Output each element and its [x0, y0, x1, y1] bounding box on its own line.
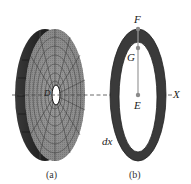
- caption-a: (a): [46, 170, 57, 180]
- caption-b: (b): [129, 170, 141, 180]
- ring-panel-b: [110, 27, 166, 161]
- label-X: X: [173, 89, 180, 100]
- label-dx: dx: [102, 136, 112, 147]
- label-F: F: [134, 14, 141, 25]
- point-E: [136, 93, 140, 97]
- figure-canvas: [0, 0, 191, 184]
- label-G: G: [127, 52, 135, 63]
- point-G: [136, 46, 140, 50]
- label-D: D: [44, 89, 51, 98]
- label-E: E: [134, 100, 141, 111]
- point-F: [136, 27, 140, 31]
